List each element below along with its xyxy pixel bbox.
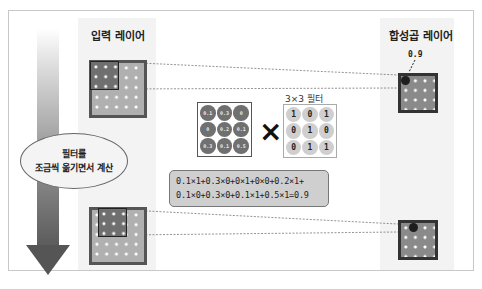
formula-box: 0.1×1+0.3×0+0×1+0×0+0.2×1+ 0.1×0+0.3×0+0… (169, 170, 329, 207)
multiply-icon: × (259, 118, 282, 146)
result-value-label: 0.9 (408, 50, 422, 59)
input-cell: 0 (200, 122, 216, 138)
output-cell-marker-top (401, 76, 410, 85)
input-cell: 0.2 (217, 122, 233, 138)
input-patch-matrix: 0.1 0.3 0 0 0.2 0.1 0.3 0.1 0.5 (197, 102, 252, 157)
filter-cell: 0 (286, 140, 301, 155)
filter-cell: 1 (302, 123, 317, 138)
filter-cell: 1 (319, 107, 334, 122)
filter-window-bottom (98, 208, 127, 237)
filter-cell: 1 (302, 140, 317, 155)
output-cell-marker-bottom (409, 223, 418, 232)
formula-line1: 0.1×1+0.3×0+0×1+0×0+0.2×1+ (176, 174, 322, 188)
input-cell: 0.3 (200, 138, 216, 154)
input-cell: 0.1 (200, 105, 216, 121)
filter-cell: 0 (302, 107, 317, 122)
input-cell: 0.1 (233, 122, 249, 138)
filter-cell: 1 (286, 107, 301, 122)
input-cell: 0.3 (217, 105, 233, 121)
input-cell: 0 (233, 105, 249, 121)
filter-cell: 1 (319, 140, 334, 155)
filter-cell: 0 (286, 123, 301, 138)
formula-line2: 0.1×0+0.3×0+0.1×1+0.5×1=0.9 (176, 188, 322, 202)
input-cell: 0.5 (233, 138, 249, 154)
filter-cell: 0 (319, 123, 334, 138)
input-cell: 0.1 (217, 138, 233, 154)
filter-matrix: 1 0 1 0 1 0 0 1 1 (283, 104, 337, 158)
filter-window-top (90, 61, 119, 90)
output-grid-bottom (398, 220, 438, 260)
